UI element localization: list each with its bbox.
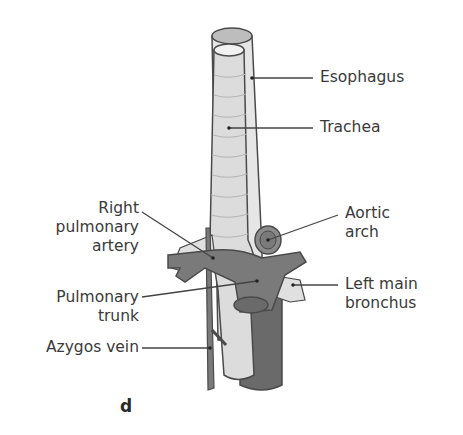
pulmonary-trunk-opening xyxy=(234,297,268,313)
label-aortic-arch: Aortic arch xyxy=(345,204,390,242)
label-line: trunk xyxy=(56,307,139,326)
label-line: Pulmonary xyxy=(56,288,139,307)
label-line: Left main xyxy=(345,275,418,294)
panel-letter: d xyxy=(120,396,132,416)
label-line: Right xyxy=(56,199,139,218)
label-pulmonary-trunk: Pulmonary trunk xyxy=(56,288,139,326)
label-line: bronchus xyxy=(345,294,418,313)
label-right-pulmonary-artery: Right pulmonary artery xyxy=(56,199,139,256)
label-left-main-bronchus: Left main bronchus xyxy=(345,275,418,313)
label-trachea: Trachea xyxy=(320,118,380,137)
label-line: Aortic xyxy=(345,204,390,223)
label-azygos-vein: Azygos vein xyxy=(46,338,139,357)
esophagus-top xyxy=(212,28,252,44)
label-line: arch xyxy=(345,223,390,242)
trachea-top xyxy=(214,44,244,56)
label-line: pulmonary xyxy=(56,218,139,237)
label-line: artery xyxy=(56,237,139,256)
label-esophagus: Esophagus xyxy=(320,68,404,87)
